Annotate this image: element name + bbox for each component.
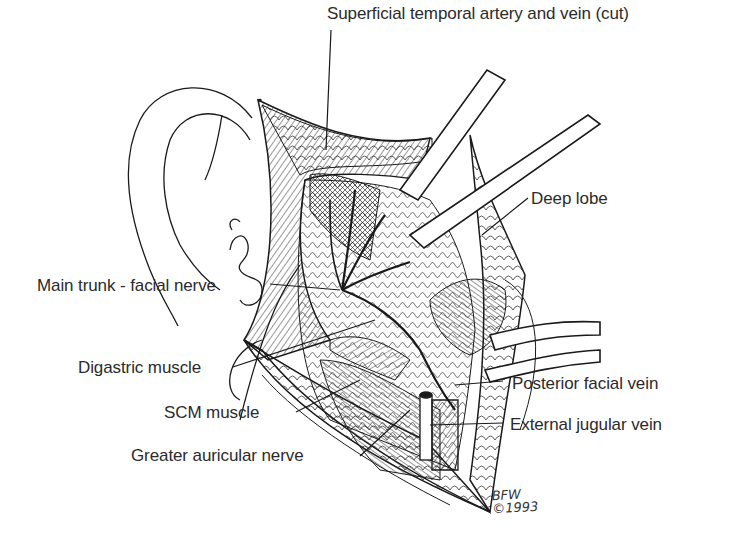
label-greater-auricular-nerve: Greater auricular nerve	[131, 447, 304, 464]
artist-signature: BFW ©1993	[491, 487, 538, 515]
label-posterior-facial-vein: Posterior facial vein	[512, 375, 658, 392]
label-main-trunk-facial-nerve: Main trunk - facial nerve	[37, 277, 216, 294]
label-deep-lobe: Deep lobe	[531, 190, 608, 207]
external-jugular-vein-drawing	[420, 392, 458, 470]
copyright-year: ©1993	[492, 500, 539, 515]
label-superficial-temporal-artery-vein: Superficial temporal artery and vein (cu…	[327, 5, 629, 22]
illustration-drawing	[0, 0, 741, 546]
label-scm-muscle: SCM muscle	[164, 404, 259, 421]
anatomical-illustration: Superficial temporal artery and vein (cu…	[0, 0, 741, 546]
label-external-jugular-vein: External jugular vein	[510, 416, 662, 433]
label-digastric-muscle: Digastric muscle	[78, 359, 201, 376]
